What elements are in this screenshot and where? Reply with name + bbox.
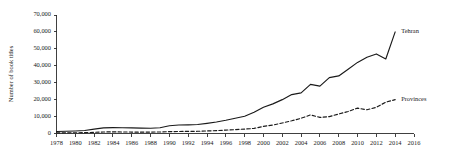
series-inline-labels: TehranProvinces — [401, 27, 427, 102]
y-tick-label: 20,000 — [33, 95, 51, 102]
x-tick-label: 2012 — [370, 139, 383, 146]
y-tick-label: 60,000 — [33, 27, 51, 34]
x-tick-label: 2000 — [257, 139, 270, 146]
y-tick-label: 50,000 — [33, 44, 51, 51]
x-tick-label: 2016 — [408, 139, 421, 146]
x-tick-label: 1994 — [201, 139, 215, 146]
x-tick-label: 2002 — [276, 139, 289, 146]
x-tick-label: 1982 — [88, 139, 101, 146]
y-tick-label: 0 — [48, 129, 51, 136]
x-tick-label: 2006 — [314, 139, 327, 146]
x-tick-label: 1998 — [238, 139, 251, 146]
x-tick-label: 1980 — [69, 139, 82, 146]
y-axis-title-label: Number of book titles — [7, 45, 14, 102]
chart-canvas: Number of book titles 010,00020,00030,00… — [0, 0, 458, 163]
x-tick-label: 1992 — [182, 139, 195, 146]
x-tick-label: 2004 — [295, 139, 309, 146]
x-tick-label: 2014 — [389, 139, 403, 146]
y-tick-label: 30,000 — [33, 78, 51, 85]
x-tick-label: 1996 — [219, 139, 232, 146]
x-tick-label: 1990 — [163, 139, 176, 146]
y-tick-label: 10,000 — [33, 112, 51, 119]
series-label-provinces: Provinces — [401, 95, 427, 102]
y-tick-label: 40,000 — [33, 61, 51, 68]
data-series-group — [57, 32, 396, 133]
x-tick-label: 1988 — [144, 139, 157, 146]
y-axis-ticks: 010,00020,00030,00040,00050,00060,00070,… — [33, 10, 56, 136]
x-tick-label: 1986 — [125, 139, 138, 146]
line-chart: Number of book titles 010,00020,00030,00… — [0, 0, 458, 163]
series-path-tehran — [57, 32, 396, 132]
x-tick-label: 1984 — [107, 139, 121, 146]
x-axis-ticks: 1978198019821984198619881990199219941996… — [50, 134, 420, 147]
x-tick-label: 2008 — [332, 139, 345, 146]
y-axis-title: Number of book titles — [7, 45, 14, 102]
series-label-tehran: Tehran — [401, 27, 419, 34]
y-tick-label: 70,000 — [33, 10, 51, 17]
x-tick-label: 2010 — [351, 139, 364, 146]
x-tick-label: 1978 — [50, 139, 63, 146]
